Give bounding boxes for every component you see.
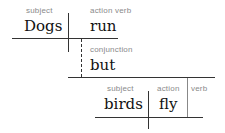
conjunction-line xyxy=(68,77,215,78)
clause1-baseline xyxy=(12,38,118,39)
clause2-verb-suffix-label: verb xyxy=(191,85,207,93)
clause2-verb-connector xyxy=(187,78,188,117)
clause2-subject-word: birds xyxy=(104,97,143,112)
clause1-verb-word: run xyxy=(90,19,117,34)
clause1-subject-verb-divider xyxy=(68,13,69,52)
clause2-subject-verb-divider xyxy=(148,91,149,129)
conjunction-word: but xyxy=(90,58,115,73)
clause2-verb-word: fly xyxy=(159,97,177,112)
clause2-subject-label: subject xyxy=(107,85,134,93)
clause1-subject-label: subject xyxy=(26,7,53,15)
clause1-subject-word: Dogs xyxy=(24,19,62,34)
conjunction-label: conjunction xyxy=(90,46,133,54)
clause1-verb-label: action verb xyxy=(90,7,131,15)
conjunction-dashed-connector xyxy=(81,39,82,77)
clause2-verb-label: action xyxy=(157,85,180,93)
